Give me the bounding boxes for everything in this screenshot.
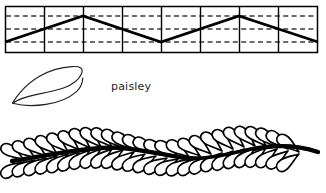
border-leaves-upper bbox=[0, 124, 302, 165]
border-stem bbox=[12, 146, 318, 161]
border-stem-overlay bbox=[12, 146, 318, 161]
paisley-tail-curve bbox=[13, 78, 83, 106]
zigzag-grid-panel bbox=[0, 0, 326, 60]
border-leaves-lower bbox=[0, 144, 302, 181]
paisley-label: paisley bbox=[111, 80, 151, 93]
figure-canvas: paisley bbox=[0, 0, 326, 193]
paisley-outline bbox=[13, 67, 83, 104]
